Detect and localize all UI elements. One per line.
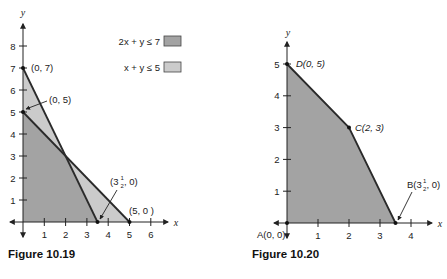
figures-canvas: 1 2 3 4 5 6 1 2 3 4 5 6 7 8 bbox=[0, 0, 447, 279]
svg-text:5: 5 bbox=[274, 59, 279, 70]
label-5-0: (5, 0 ) bbox=[129, 205, 154, 216]
svg-text:4: 4 bbox=[106, 229, 111, 240]
x-axis-label: x bbox=[173, 217, 179, 228]
svg-text:(3: (3 bbox=[110, 176, 118, 187]
caption-figure-10-19: Figure 10.19 bbox=[8, 248, 75, 260]
svg-text:1: 1 bbox=[10, 195, 15, 206]
label-0-7: (0, 7) bbox=[31, 62, 53, 73]
svg-text:7: 7 bbox=[10, 63, 15, 74]
svg-text:2: 2 bbox=[346, 230, 351, 241]
y-axis-label: y bbox=[20, 7, 26, 18]
svg-text:3: 3 bbox=[377, 230, 382, 241]
region-intersection bbox=[23, 112, 98, 222]
legend-label-2x-plus-y: 2x + y ≤ 7 bbox=[119, 36, 160, 47]
pointer-B bbox=[398, 192, 412, 220]
caption-figure-10-20: Figure 10.20 bbox=[252, 248, 319, 260]
svg-text:3: 3 bbox=[274, 122, 279, 133]
x-tick-labels: 1 2 3 4 5 6 bbox=[42, 229, 154, 240]
svg-text:2: 2 bbox=[10, 173, 15, 184]
svg-text:6: 6 bbox=[148, 229, 153, 240]
point-D bbox=[285, 62, 289, 66]
svg-text:, 0): , 0) bbox=[427, 179, 441, 190]
point-3.5-0 bbox=[96, 220, 100, 224]
svg-text:6: 6 bbox=[10, 85, 15, 96]
x-axis-label: x bbox=[437, 218, 443, 229]
svg-text:, 0): , 0) bbox=[124, 176, 138, 187]
label-B: B(3 1 2 , 0) bbox=[407, 178, 440, 192]
y-tick-labels: 1 2 3 4 5 bbox=[274, 59, 279, 197]
svg-text:1: 1 bbox=[42, 229, 47, 240]
legend-swatch-x-plus-y bbox=[164, 62, 181, 72]
legend-label-x-plus-y: x + y ≤ 5 bbox=[124, 62, 160, 73]
svg-text:2: 2 bbox=[63, 229, 68, 240]
legend: 2x + y ≤ 7 x + y ≤ 5 bbox=[119, 36, 181, 73]
point-C bbox=[347, 126, 351, 130]
y-tick-labels: 1 2 3 4 5 6 7 8 bbox=[10, 41, 15, 206]
label-3.5-0: (3 1 2 , 0) bbox=[110, 175, 138, 189]
label-0-5: (0, 5) bbox=[49, 94, 71, 105]
label-C: C(2, 3) bbox=[355, 122, 384, 133]
figure-10-19: 1 2 3 4 5 6 1 2 3 4 5 6 7 8 bbox=[10, 7, 181, 240]
svg-text:4: 4 bbox=[408, 230, 413, 241]
svg-text:1: 1 bbox=[274, 186, 279, 197]
svg-text:5: 5 bbox=[10, 107, 15, 118]
point-0-7 bbox=[21, 66, 25, 70]
svg-text:1: 1 bbox=[315, 230, 320, 241]
point-A bbox=[285, 221, 289, 225]
svg-text:2: 2 bbox=[274, 154, 279, 165]
y-axis-label: y bbox=[285, 27, 291, 38]
point-5-0 bbox=[128, 220, 132, 224]
svg-text:8: 8 bbox=[10, 41, 15, 52]
point-B bbox=[394, 221, 398, 225]
label-A: A(0, 0) bbox=[257, 229, 286, 240]
svg-text:4: 4 bbox=[10, 129, 15, 140]
svg-text:5: 5 bbox=[127, 229, 132, 240]
feasible-region bbox=[287, 64, 396, 223]
svg-text:4: 4 bbox=[274, 90, 279, 101]
svg-text:3: 3 bbox=[84, 229, 89, 240]
svg-text:B(3: B(3 bbox=[407, 179, 422, 190]
svg-text:3: 3 bbox=[10, 151, 15, 162]
label-D: D(0, 5) bbox=[296, 58, 325, 69]
legend-swatch-2x-plus-y bbox=[164, 36, 181, 46]
point-0-5 bbox=[21, 110, 25, 114]
figure-10-20: 1 2 3 4 1 2 3 4 5 y x D(0, 5) C( bbox=[257, 27, 443, 241]
x-tick-labels: 1 2 3 4 bbox=[315, 230, 413, 241]
